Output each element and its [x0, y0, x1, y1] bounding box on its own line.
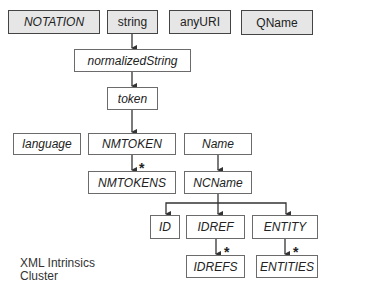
node-idrefs: IDREFS: [186, 255, 245, 278]
node-idref: IDREF: [186, 215, 245, 239]
node-label: NMTOKEN: [102, 137, 162, 151]
node-normalizedstring: normalizedString: [74, 49, 191, 72]
node-label: token: [118, 92, 147, 106]
node-label: ID: [159, 220, 171, 234]
node-entities: ENTITIES: [256, 255, 318, 278]
node-label: language: [22, 137, 71, 151]
node-label: QName: [256, 16, 297, 30]
node-entity: ENTITY: [252, 215, 318, 239]
node-label: ENTITY: [264, 220, 307, 234]
node-name: Name: [184, 133, 252, 155]
node-language: language: [13, 133, 81, 155]
node-notation: NOTATION: [8, 10, 100, 34]
list-marker-nmtokens: *: [139, 163, 144, 173]
cluster-caption: XML Intrinsics Cluster: [20, 257, 95, 283]
node-label: NMTOKENS: [98, 176, 166, 190]
edge-ncname-id: [166, 203, 218, 214]
node-label: NOTATION: [24, 15, 84, 29]
edge-ncname-entity: [218, 203, 286, 214]
node-label: Name: [202, 137, 234, 151]
node-qname: QName: [241, 10, 313, 35]
node-label: NCName: [193, 176, 242, 190]
node-label: anyURI: [180, 15, 220, 29]
list-marker-idrefs: *: [224, 247, 229, 257]
caption-line: Cluster: [20, 270, 95, 283]
node-label: IDREF: [198, 220, 234, 234]
node-id: ID: [150, 215, 180, 239]
node-token: token: [107, 87, 158, 110]
node-ncname: NCName: [184, 171, 252, 194]
node-nmtokens: NMTOKENS: [88, 171, 176, 194]
node-label: IDREFS: [193, 260, 237, 274]
node-label: ENTITIES: [260, 260, 314, 274]
node-nmtoken: NMTOKEN: [88, 133, 176, 155]
node-string: string: [107, 10, 158, 34]
node-anyuri: anyURI: [169, 10, 231, 34]
node-label: normalizedString: [87, 54, 177, 68]
list-marker-entities: *: [293, 247, 298, 257]
node-label: string: [118, 15, 147, 29]
